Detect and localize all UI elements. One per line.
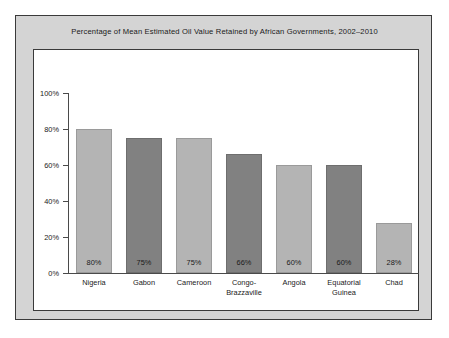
y-tick-80 — [63, 129, 69, 130]
plot-area: 0%20%40%60%80%100% 80%75%75%66%60%60%28%… — [33, 49, 419, 311]
bar-congo-brazzaville: 66% — [226, 154, 262, 273]
y-tick-label: 60% — [33, 161, 59, 170]
bar-cameroon: 75% — [176, 138, 212, 273]
x-label-line: Brazzaville — [219, 288, 269, 298]
y-tick-0 — [63, 273, 69, 274]
bar-value-label: 75% — [127, 258, 161, 267]
x-label-chad: Chad — [369, 278, 419, 288]
x-label-angola: Angola — [269, 278, 319, 288]
x-label-line: Equatorial — [319, 278, 369, 288]
y-axis-line — [68, 93, 69, 274]
bar-angola: 60% — [276, 165, 312, 273]
y-tick-60 — [63, 165, 69, 166]
x-label-gabon: Gabon — [119, 278, 169, 288]
y-tick-20 — [63, 237, 69, 238]
y-tick-100 — [63, 93, 69, 94]
y-tick-label: 0% — [33, 269, 59, 278]
bar-gabon: 75% — [126, 138, 162, 273]
chart-title: Percentage of Mean Estimated Oil Value R… — [16, 27, 433, 36]
x-label-cameroon: Cameroon — [169, 278, 219, 288]
chart-panel: Percentage of Mean Estimated Oil Value R… — [15, 15, 432, 320]
bar-value-label: 66% — [227, 258, 261, 267]
chart-figure: Percentage of Mean Estimated Oil Value R… — [0, 0, 449, 338]
x-label-line: Congo- — [219, 278, 269, 288]
bar-value-label: 28% — [377, 258, 411, 267]
bar-nigeria: 80% — [76, 129, 112, 273]
x-label-line: Angola — [269, 278, 319, 288]
y-tick-40 — [63, 201, 69, 202]
bar-value-label: 80% — [77, 258, 111, 267]
x-label-line: Gabon — [119, 278, 169, 288]
y-tick-label: 80% — [33, 125, 59, 134]
bar-equatorial-guinea: 60% — [326, 165, 362, 273]
bar-value-label: 60% — [327, 258, 361, 267]
x-label-line: Cameroon — [169, 278, 219, 288]
y-tick-label: 20% — [33, 233, 59, 242]
x-label-line: Nigeria — [69, 278, 119, 288]
bar-value-label: 60% — [277, 258, 311, 267]
x-label-congo-brazzaville: Congo-Brazzaville — [219, 278, 269, 297]
x-label-line: Guinea — [319, 288, 369, 298]
x-axis-line — [68, 273, 419, 274]
x-label-equatorial-guinea: EquatorialGuinea — [319, 278, 369, 297]
bar-value-label: 75% — [177, 258, 211, 267]
bar-chad: 28% — [376, 223, 412, 273]
x-label-line: Chad — [369, 278, 419, 288]
x-label-nigeria: Nigeria — [69, 278, 119, 288]
y-tick-label: 100% — [33, 89, 59, 98]
y-tick-label: 40% — [33, 197, 59, 206]
